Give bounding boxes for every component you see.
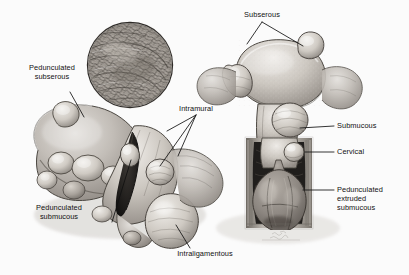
label-pedunculated-extruded-submucous: Pedunculated extruded submucous [337,185,409,213]
label-cervical: Cervical [337,147,407,156]
label-pedunculated-subserous: Pedunculated subserous [8,63,96,81]
illustration-figure: Pedunculated subserous Subserous Intramu… [0,0,409,275]
label-pedunculated-submucous: Pedunculated submucous [7,203,111,221]
label-intramural: Intramural [158,104,234,113]
histology-inset [87,22,174,109]
left-intramural-nodule [146,159,174,185]
pedunculated-subserous-nodule [53,102,79,127]
label-submucous: Submucous [337,121,407,130]
cervical-nodule [284,143,304,162]
anatomy-drawing [0,0,409,275]
label-subserous: Subserous [222,10,302,19]
label-intraligamentous: Intraligamentous [160,249,250,258]
submucous-nodule [272,103,308,137]
left-specimen-bisected-uterus [34,102,223,249]
